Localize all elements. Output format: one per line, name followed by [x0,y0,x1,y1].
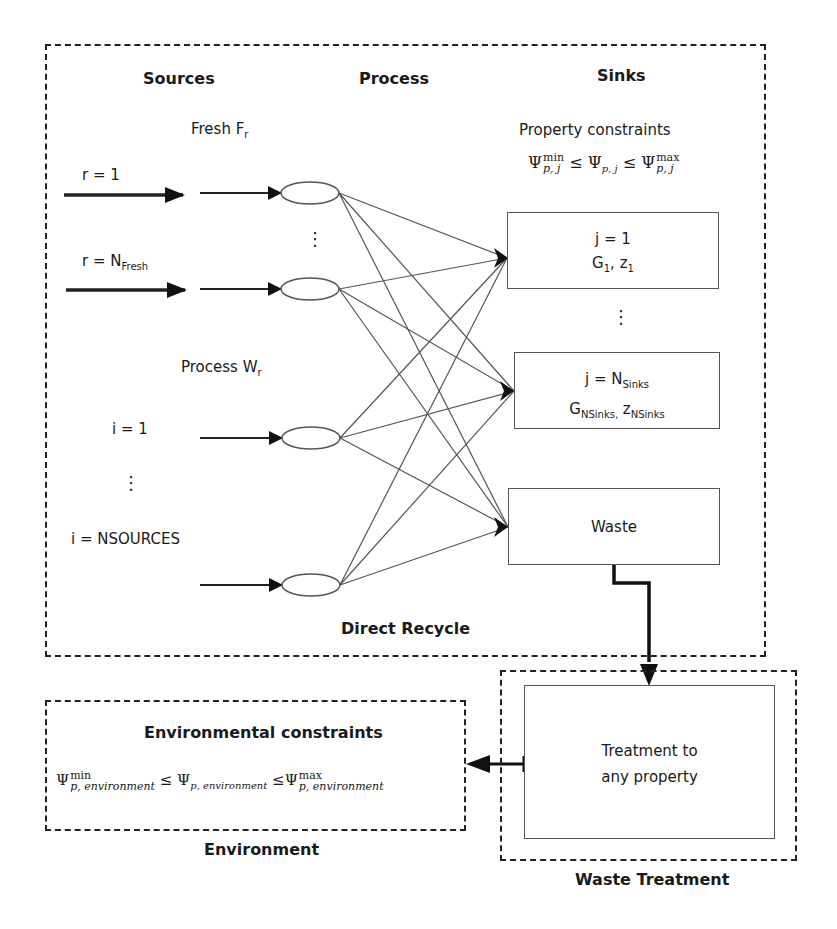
waste-sink-box: Waste [508,488,720,565]
property-constraints-title: Property constraints [519,121,671,139]
process-ellipsis: ⋮ [122,472,140,493]
sinks-ellipsis: ⋮ [612,306,630,327]
sink-box-n: j = NSinks GNSinks, zNSinks [514,352,720,429]
environment-label: Environment [204,840,319,859]
environmental-constraints-formula: Ψminp, environment ≤ Ψp, environment ≤Ψm… [56,770,384,792]
process-label: Process Wr [181,358,262,378]
direct-recycle-label: Direct Recycle [341,619,470,638]
treatment-box: Treatment to any property [524,685,775,839]
environment-boundary [45,700,466,831]
fresh-label: Fresh Fr [191,120,248,140]
process-source-1-label: i = 1 [112,420,148,438]
fresh-ellipsis: ⋮ [306,228,324,249]
property-constraints-formula: Ψminp, j ≤ Ψp, j ≤ Ψmaxp, j [528,152,679,174]
environmental-constraints-title: Environmental constraints [144,723,383,742]
process-source-n-label: i = NSOURCES [71,530,180,548]
process-header: Process [359,69,429,88]
sinks-header: Sinks [597,66,646,85]
waste-treatment-label: Waste Treatment [575,870,729,889]
sources-header: Sources [143,69,215,88]
fresh-source-1-label: r = 1 [82,166,120,184]
fresh-source-n-label: r = NFresh [82,252,148,272]
sink-box-1: j = 1 G1, z1 [507,212,719,289]
